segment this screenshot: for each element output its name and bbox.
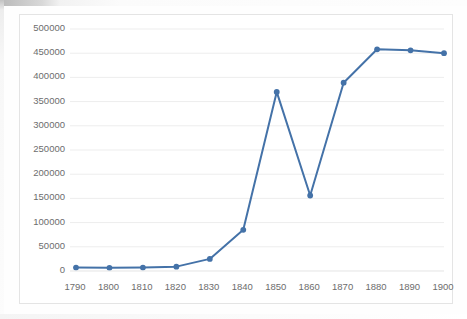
plot-canvas: [20, 15, 452, 303]
data-point-marker: [274, 89, 280, 95]
data-point-marker: [374, 46, 380, 52]
x-axis-tick-label: 1840: [226, 282, 258, 292]
data-point-marker: [441, 50, 447, 56]
data-point-marker: [307, 193, 313, 199]
data-point-marker: [341, 80, 347, 86]
data-point-marker: [240, 227, 246, 233]
series-line: [76, 49, 444, 268]
scan-edge-left: [0, 0, 4, 319]
x-axis-tick-label: 1830: [193, 282, 225, 292]
y-axis-tick-label: 400000: [21, 71, 65, 81]
y-axis-tick-label: 0: [21, 265, 65, 275]
data-point-marker: [107, 265, 113, 271]
y-axis-tick-label: 250000: [21, 144, 65, 154]
line-chart: 0500001000001500002000002500003000003500…: [0, 0, 467, 319]
x-axis-tick-label: 1850: [260, 282, 292, 292]
data-point-marker: [140, 265, 146, 271]
data-point-marker: [408, 47, 414, 53]
x-axis-tick-label: 1880: [360, 282, 392, 292]
x-axis-tick-label: 1810: [126, 282, 158, 292]
y-axis-tick-label: 100000: [21, 217, 65, 227]
data-point-marker: [73, 265, 79, 271]
y-axis-tick-label: 200000: [21, 168, 65, 178]
x-axis-tick-label: 1800: [92, 282, 124, 292]
scan-edge-bottom: [0, 314, 467, 319]
y-axis-tick-label: 350000: [21, 96, 65, 106]
x-axis-tick-label: 1790: [59, 282, 91, 292]
x-axis-tick-label: 1860: [293, 282, 325, 292]
y-axis-tick-label: 50000: [21, 241, 65, 251]
y-axis-tick-label: 300000: [21, 120, 65, 130]
x-axis-tick-label: 1820: [159, 282, 191, 292]
x-axis-tick-label: 1870: [327, 282, 359, 292]
y-axis-tick-label: 150000: [21, 192, 65, 202]
x-axis-tick-label: 1900: [427, 282, 459, 292]
x-axis-tick-label: 1890: [394, 282, 426, 292]
data-point-marker: [207, 256, 213, 262]
y-axis-tick-label: 450000: [21, 47, 65, 57]
series-line-group: [73, 46, 447, 270]
gridlines: [70, 29, 444, 271]
data-point-marker: [173, 264, 179, 270]
y-axis-tick-label: 500000: [21, 23, 65, 33]
scan-edge-top: [0, 0, 467, 6]
plot-area: [19, 14, 453, 304]
